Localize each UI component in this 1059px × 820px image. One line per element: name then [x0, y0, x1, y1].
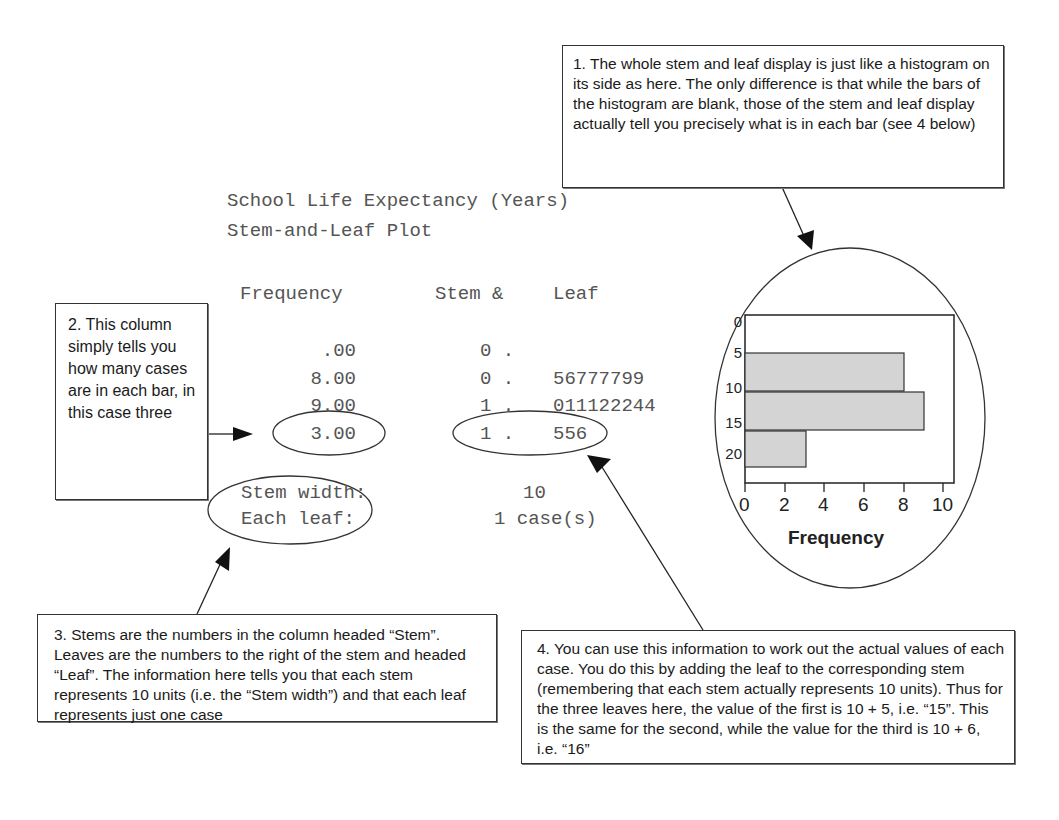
- arrowhead-icon: [587, 455, 611, 473]
- arrow-callout4: [602, 467, 703, 630]
- row-stem: 0 .: [480, 340, 514, 362]
- row-frequency: 9.00: [260, 395, 356, 417]
- arrowhead-icon: [233, 427, 253, 441]
- row-stem: 1 .: [480, 395, 514, 417]
- histogram-bar-10-15: [745, 392, 924, 430]
- y-tick-label: 0: [734, 314, 742, 329]
- histogram-bar-15-20: [745, 431, 806, 467]
- plot-subtitle: Stem-and-Leaf Plot: [227, 220, 432, 242]
- row-frequency: 8.00: [260, 368, 356, 390]
- x-tick-label: 4: [818, 494, 829, 516]
- row-leaf: 556: [553, 423, 587, 445]
- callout-4-text: 4. You can use this information to work …: [537, 640, 1004, 757]
- y-tick-label: 5: [734, 345, 742, 360]
- x-tick-label: 6: [858, 494, 869, 516]
- histogram-bar-5-10: [745, 353, 904, 391]
- header-leaf: Leaf: [553, 283, 599, 305]
- row-leaf: 011122244: [553, 395, 656, 417]
- x-tick-label: 10: [932, 494, 953, 516]
- arrowhead-icon: [797, 230, 814, 250]
- stem-width-value: 10: [523, 482, 546, 504]
- stem-width-label: Stem width:: [241, 482, 366, 504]
- x-tick-label: 0: [739, 494, 750, 516]
- arrow-callout3: [197, 558, 223, 614]
- callout-3-text: 3. Stems are the numbers in the column h…: [54, 626, 466, 723]
- callout-2-text: 2. This column simply tells you how many…: [68, 316, 195, 421]
- header-stem: Stem &: [435, 283, 503, 305]
- header-frequency: Frequency: [240, 283, 343, 305]
- histogram-x-axis-label: Frequency: [788, 527, 884, 549]
- row-leaf: 56777799: [553, 368, 644, 390]
- histogram: [745, 315, 954, 492]
- x-tick-label: 8: [898, 494, 909, 516]
- callout-3: 3. Stems are the numbers in the column h…: [37, 614, 497, 722]
- each-leaf-label: Each leaf:: [241, 508, 355, 530]
- y-tick-label: 20: [725, 446, 742, 461]
- y-tick-label: 15: [725, 415, 742, 430]
- row-frequency: .00: [260, 340, 356, 362]
- each-leaf-value: 1 case(s): [494, 508, 597, 530]
- plot-title: School Life Expectancy (Years): [227, 190, 569, 212]
- row-stem: 1 .: [480, 423, 514, 445]
- row-frequency: 3.00: [260, 423, 356, 445]
- callout-1-text: 1. The whole stem and leaf display is ju…: [573, 55, 990, 132]
- x-tick-label: 2: [779, 494, 790, 516]
- callout-2: 2. This column simply tells you how many…: [55, 303, 208, 500]
- y-tick-label: 10: [725, 380, 742, 395]
- row-stem: 0 .: [480, 368, 514, 390]
- histogram-x-ticks: 0 2 4 6 8 10: [730, 494, 970, 518]
- callout-1: 1. The whole stem and leaf display is ju…: [562, 45, 1004, 188]
- callout-4: 4. You can use this information to work …: [521, 630, 1015, 764]
- arrowhead-icon: [215, 547, 230, 571]
